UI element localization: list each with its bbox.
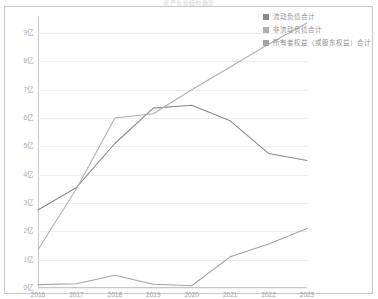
y-axis-tick-label: 8亿 — [23, 58, 34, 65]
y-axis-tick-label: 6亿 — [23, 115, 34, 122]
plot-area: 0亿1亿2亿3亿4亿5亿6亿7亿8亿9亿 2016201720182019202… — [38, 16, 307, 288]
y-axis-tick-label: 1亿 — [23, 256, 34, 263]
legend-item-label: 流动负债合计 — [273, 14, 315, 21]
x-axis-tick-label: 2020 — [184, 292, 198, 299]
x-axis-tick-label: 2019 — [146, 292, 160, 299]
x-axis-tick-label: 2021 — [223, 292, 237, 299]
legend-item[interactable]: 所有者权益（或股东权益）合计 — [263, 40, 371, 47]
chart-legend: 流动负债合计非流动负债合计所有者权益（或股东权益）合计 — [263, 14, 371, 47]
x-axis-tick-label: 2016 — [31, 292, 45, 299]
legend-item[interactable]: 流动负债合计 — [263, 14, 371, 21]
y-axis-tick-label: 2亿 — [23, 228, 34, 235]
legend-swatch-icon — [263, 27, 269, 33]
series-line — [38, 23, 307, 250]
x-axis-tick-label: 2023 — [300, 292, 314, 299]
legend-swatch-icon — [263, 14, 269, 20]
y-axis-tick-label: 9亿 — [23, 30, 34, 37]
legend-swatch-icon — [263, 40, 269, 46]
y-axis-tick-label: 4亿 — [23, 171, 34, 178]
x-axis-tick-label: 2018 — [108, 292, 122, 299]
gridline — [38, 288, 307, 289]
series-line — [38, 105, 307, 210]
legend-item-label: 所有者权益（或股东权益）合计 — [273, 40, 371, 47]
y-axis-tick-label: 5亿 — [23, 143, 34, 150]
chart-screenshot: 资产负债结构趋势 0亿1亿2亿3亿4亿5亿6亿7亿8亿9亿 2016201720… — [0, 0, 378, 299]
series-line — [38, 229, 307, 286]
y-axis-tick-label: 3亿 — [23, 200, 34, 207]
x-axis-tick-label: 2022 — [261, 292, 275, 299]
x-axis-tick-label: 2017 — [69, 292, 83, 299]
y-axis-tick-label: 7亿 — [23, 86, 34, 93]
legend-item[interactable]: 非流动负债合计 — [263, 27, 371, 34]
series-lines — [38, 16, 307, 288]
legend-item-label: 非流动负债合计 — [273, 27, 322, 34]
chart-frame: 0亿1亿2亿3亿4亿5亿6亿7亿8亿9亿 2016201720182019202… — [4, 6, 373, 294]
